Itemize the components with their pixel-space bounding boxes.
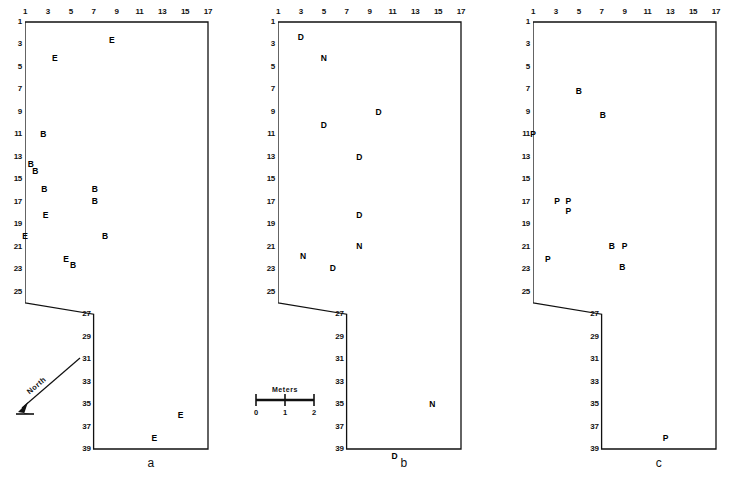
row-tick-1: 1 (271, 18, 275, 26)
row-tick-25: 25 (522, 288, 530, 296)
col-tick-3: 3 (554, 8, 558, 16)
row-tick-31: 31 (590, 355, 598, 363)
row-tick-39: 39 (590, 445, 598, 453)
col-tick-1: 1 (531, 8, 535, 16)
artifact-mark-P: P (530, 130, 536, 139)
row-tick-7: 7 (526, 85, 530, 93)
col-tick-7: 7 (92, 8, 96, 16)
artifact-mark-P: P (545, 255, 551, 264)
row-tick-31: 31 (335, 355, 343, 363)
row-tick-17: 17 (522, 198, 530, 206)
row-tick-19: 19 (267, 220, 275, 228)
panel-caption-b: b (400, 457, 407, 469)
artifact-mark-E: E (178, 411, 184, 420)
row-tick-39: 39 (335, 445, 343, 453)
row-tick-17: 17 (267, 198, 275, 206)
col-tick-7: 7 (600, 8, 604, 16)
artifact-mark-B: B (600, 111, 606, 120)
row-tick-11: 11 (522, 130, 530, 138)
row-tick-35: 35 (335, 400, 343, 408)
row-tick-25: 25 (14, 288, 22, 296)
col-tick-3: 3 (299, 8, 303, 16)
site-outline-c (533, 0, 722, 453)
row-tick-3: 3 (271, 40, 275, 48)
row-tick-29: 29 (82, 333, 90, 341)
artifact-mark-B: B (32, 167, 38, 176)
artifact-mark-P: P (566, 207, 572, 216)
row-tick-27: 27 (335, 310, 343, 318)
col-tick-9: 9 (367, 8, 371, 16)
row-tick-5: 5 (271, 63, 275, 71)
row-tick-25: 25 (267, 288, 275, 296)
row-tick-15: 15 (14, 175, 22, 183)
row-tick-21: 21 (522, 243, 530, 251)
scale-tick-2: 2 (312, 408, 316, 417)
row-tick-29: 29 (335, 333, 343, 341)
artifact-mark-P: P (622, 241, 628, 250)
col-tick-17: 17 (712, 8, 720, 16)
row-tick-15: 15 (522, 175, 530, 183)
artifact-mark-B: B (41, 185, 47, 194)
row-tick-19: 19 (14, 220, 22, 228)
col-tick-13: 13 (158, 8, 166, 16)
row-tick-21: 21 (267, 243, 275, 251)
row-tick-3: 3 (526, 40, 530, 48)
north-arrow-graphic (8, 352, 98, 424)
col-tick-15: 15 (689, 8, 697, 16)
row-tick-33: 33 (590, 378, 598, 386)
row-tick-27: 27 (82, 310, 90, 318)
col-tick-5: 5 (69, 8, 73, 16)
col-tick-15: 15 (181, 8, 189, 16)
artifact-mark-N: N (356, 241, 362, 250)
col-tick-1: 1 (276, 8, 280, 16)
row-tick-23: 23 (522, 265, 530, 273)
row-tick-3: 3 (18, 40, 22, 48)
artifact-mark-B: B (576, 86, 582, 95)
panel-caption-c: c (656, 457, 662, 469)
row-tick-5: 5 (526, 63, 530, 71)
artifact-mark-D: D (356, 211, 362, 220)
col-tick-7: 7 (345, 8, 349, 16)
artifact-mark-E: E (22, 231, 28, 240)
col-tick-13: 13 (411, 8, 419, 16)
row-tick-15: 15 (267, 175, 275, 183)
scale-bar: Meters 0 1 2 (252, 386, 318, 420)
artifact-mark-D: D (376, 108, 382, 117)
row-tick-13: 13 (522, 153, 530, 161)
row-tick-9: 9 (526, 108, 530, 116)
artifact-mark-E: E (43, 211, 49, 220)
row-tick-1: 1 (526, 18, 530, 26)
col-tick-17: 17 (204, 8, 212, 16)
artifact-mark-P: P (566, 196, 572, 205)
artifact-mark-P: P (554, 196, 560, 205)
row-tick-29: 29 (590, 333, 598, 341)
artifact-mark-D: D (356, 153, 362, 162)
artifact-mark-E: E (151, 434, 157, 443)
row-tick-9: 9 (18, 108, 22, 116)
artifact-mark-B: B (92, 196, 98, 205)
artifact-mark-D: D (330, 264, 336, 273)
artifact-mark-B: B (40, 130, 46, 139)
col-tick-11: 11 (388, 8, 396, 16)
col-tick-5: 5 (322, 8, 326, 16)
artifact-mark-D: D (392, 451, 398, 460)
row-tick-23: 23 (14, 265, 22, 273)
col-tick-15: 15 (434, 8, 442, 16)
col-tick-3: 3 (46, 8, 50, 16)
artifact-mark-B: B (92, 185, 98, 194)
row-tick-9: 9 (271, 108, 275, 116)
artifact-mark-B: B (70, 260, 76, 269)
artifact-mark-E: E (52, 54, 58, 63)
row-tick-21: 21 (14, 243, 22, 251)
artifact-mark-B: B (619, 263, 625, 272)
row-tick-7: 7 (18, 85, 22, 93)
row-tick-23: 23 (267, 265, 275, 273)
col-tick-5: 5 (577, 8, 581, 16)
site-plan-panel-c: 1357911131517135791113151719212325272931… (533, 0, 729, 480)
scale-tick-1: 1 (283, 408, 287, 417)
row-tick-13: 13 (14, 153, 22, 161)
row-tick-37: 37 (590, 423, 598, 431)
scale-bar-title: Meters (272, 386, 298, 393)
row-tick-13: 13 (267, 153, 275, 161)
artifact-mark-N: N (429, 400, 435, 409)
